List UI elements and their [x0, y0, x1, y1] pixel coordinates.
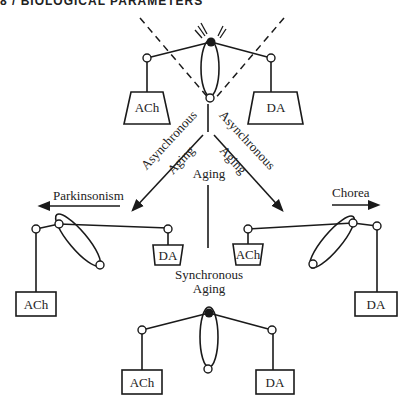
label-ach-left: ACh	[24, 297, 49, 312]
top-balance: ACh DA	[124, 18, 303, 124]
label-ach-right: ACh	[236, 247, 261, 262]
pivot-icon-bottom	[205, 309, 214, 318]
beam-ellipse	[201, 40, 219, 96]
label-da-bottom: DA	[266, 375, 285, 390]
label-synchronous: Synchronous	[175, 267, 243, 282]
label-parkinsonism: Parkinsonism	[53, 188, 124, 203]
running-title: 8 / BIOLOGICAL PARAMETERS	[0, 0, 203, 8]
aging-branches: Asynchronous Aging Aging Aging Asynchron…	[133, 104, 282, 248]
left-balance: Parkinsonism ACh DA	[16, 188, 183, 316]
label-ach-bottom: ACh	[130, 375, 155, 390]
label-ach-top: ACh	[135, 100, 160, 115]
vibration-icon	[195, 23, 226, 38]
pivot-icon	[207, 38, 216, 47]
right-balance: Chorea ACh DA	[233, 185, 397, 316]
label-chorea: Chorea	[332, 185, 370, 200]
bottom-balance: Synchronous Aging ACh DA	[122, 267, 294, 394]
label-da-top: DA	[267, 100, 286, 115]
label-da-left: DA	[159, 248, 178, 263]
balance-diagram: 8 / BIOLOGICAL PARAMETERS ACh DA	[0, 0, 412, 411]
label-da-right: DA	[367, 297, 386, 312]
label-aging-center: Aging	[193, 166, 226, 181]
label-aging-bottom: Aging	[193, 281, 226, 296]
